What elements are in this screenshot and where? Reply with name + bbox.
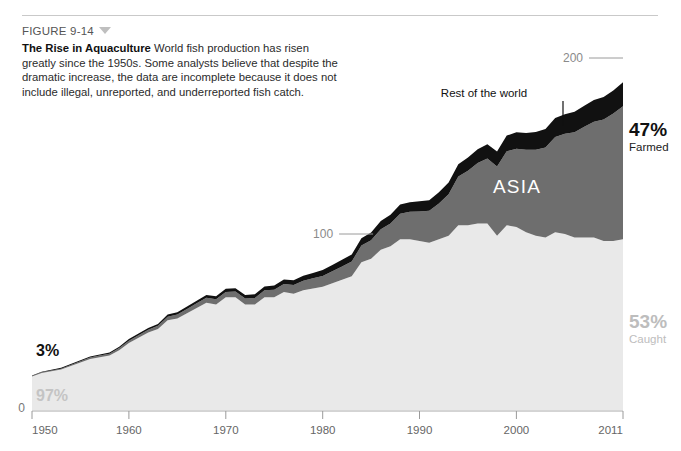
x-axis-ticks: 1950196019701980199020002011 — [32, 411, 623, 436]
label-right-farmed-pct: 47% — [629, 119, 667, 140]
x-tick-label-1960: 1960 — [116, 424, 142, 436]
x-tick-label-2011: 2011 — [598, 424, 623, 436]
x-tick-label-1990: 1990 — [407, 424, 433, 436]
label-right-farmed-word: Farmed — [629, 141, 669, 153]
series-layer — [32, 82, 623, 410]
x-tick-label-2000: 2000 — [504, 424, 530, 436]
label-rest-of-world: Rest of the world — [441, 87, 527, 99]
label-left-farmed-pct: 3% — [36, 342, 59, 359]
gridline-label-100: 100 — [313, 227, 333, 241]
label-left-caught-pct: 97% — [36, 387, 68, 404]
gridline-label-200: 200 — [563, 51, 583, 65]
chart-area: 100200 1950196019701980199020002011 0 3%… — [0, 0, 681, 451]
y-axis-zero-label: 0 — [18, 401, 25, 415]
label-right-caught-pct: 53% — [629, 311, 667, 332]
stacked-area-chart: 100200 1950196019701980199020002011 0 3%… — [0, 0, 681, 451]
x-tick-label-1950: 1950 — [32, 424, 58, 436]
area-series-caught — [32, 223, 623, 410]
figure-root: FIGURE 9-14 The Rise in Aquaculture Worl… — [0, 0, 681, 451]
x-tick-label-1980: 1980 — [310, 424, 336, 436]
label-asia-region: ASIA — [493, 176, 541, 197]
x-tick-label-1970: 1970 — [213, 424, 239, 436]
label-right-caught-word: Caught — [629, 333, 667, 345]
